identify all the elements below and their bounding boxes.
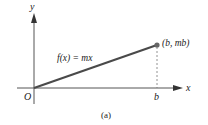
endpoint-marker — [154, 42, 159, 47]
y-axis-arrow-icon — [31, 13, 37, 23]
figure-caption: (a) — [101, 110, 111, 120]
y-axis-label: y — [29, 1, 35, 12]
function-label: f(x) = mx — [57, 53, 93, 64]
linear-function-diagram: y x O b f(x) = mx (b, mb) (a) — [0, 0, 208, 125]
x-axis-label: x — [185, 82, 191, 93]
origin-label: O — [24, 91, 31, 102]
x-tick-label-b: b — [154, 91, 159, 102]
x-axis-arrow-icon — [173, 85, 183, 91]
y-axis — [31, 13, 37, 104]
function-line — [34, 45, 157, 88]
point-label: (b, mb) — [162, 38, 189, 49]
